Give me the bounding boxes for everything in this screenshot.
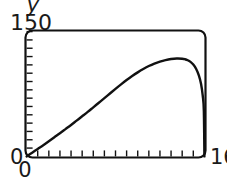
data-series-curve	[27, 59, 205, 157]
x-axis-ticks	[38, 150, 194, 156]
line-chart: y 150 0 0 16	[0, 0, 227, 177]
x-axis-min-label: 0	[18, 158, 31, 177]
y-axis-ticks	[27, 32, 33, 148]
x-axis-max-label: 16	[210, 145, 227, 169]
chart-screenshot: y 150 0 0 16	[0, 0, 227, 177]
